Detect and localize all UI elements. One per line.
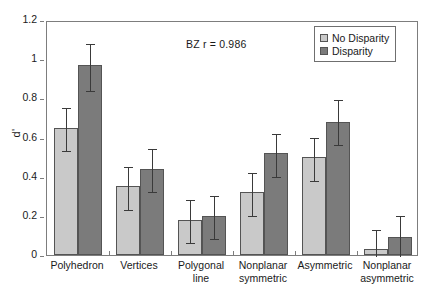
error-bar-cap-bottom (334, 145, 343, 146)
error-bar (214, 196, 215, 239)
legend-item-no-disparity: No Disparity (320, 31, 389, 44)
error-bar-cap-top (62, 108, 71, 109)
bar-chart: d' 00.20.40.60.811.2 PolyhedronVerticesP… (0, 0, 431, 304)
error-bar-cap-top (396, 216, 405, 217)
error-bar-cap-bottom (248, 216, 257, 217)
error-bar (400, 216, 401, 257)
y-tick-mark (40, 99, 44, 100)
x-tick-mark (295, 251, 296, 256)
legend-label-disparity: Disparity (332, 45, 373, 57)
legend: No Disparity Disparity (314, 26, 396, 62)
error-bar-cap-bottom (310, 181, 319, 182)
error-bar (152, 149, 153, 192)
error-bar-cap-bottom (210, 239, 219, 240)
x-tick-mark (357, 251, 358, 256)
error-bar (338, 100, 339, 145)
chart-annotation: BZ r = 0.986 (186, 38, 246, 50)
x-tick-mark (233, 251, 234, 256)
error-bar-cap-top (334, 100, 343, 101)
y-tick-label: 0.4 (22, 170, 37, 182)
y-tick-label: 0.2 (22, 209, 37, 221)
legend-swatch-icon-disparity (320, 47, 328, 55)
error-bar-cap-top (272, 134, 281, 135)
y-tick-label: 0 (31, 248, 37, 260)
error-bar-cap-top (186, 200, 195, 201)
error-bar (90, 44, 91, 91)
y-tick-mark (40, 178, 44, 179)
y-tick-label: 0.8 (22, 91, 37, 103)
y-axis-label: d' (10, 113, 22, 153)
error-bar-cap-top (124, 167, 133, 168)
error-bar-cap-bottom (124, 210, 133, 211)
error-bar-cap-top (248, 173, 257, 174)
y-tick-mark (40, 60, 44, 61)
error-bar-cap-bottom (272, 177, 281, 178)
x-tick-mark (109, 251, 110, 256)
x-axis-label-line: asymmetric (350, 272, 424, 285)
error-bar-cap-top (310, 138, 319, 139)
error-bar (252, 173, 253, 216)
error-bar-cap-top (210, 196, 219, 197)
bar-group (109, 22, 171, 255)
x-axis-label: Nonplanarasymmetric (350, 259, 424, 285)
error-bar-cap-top (148, 149, 157, 150)
y-tick-label: 1.2 (22, 13, 37, 25)
y-tick-mark (40, 217, 44, 218)
bar-group (47, 22, 109, 255)
y-tick-label: 1 (31, 52, 37, 64)
bar-group (233, 22, 295, 255)
x-axis-label-line: Nonplanar (350, 259, 424, 272)
error-bar-cap-top (372, 230, 381, 231)
error-bar (190, 200, 191, 243)
error-bar (314, 138, 315, 181)
y-tick-mark (40, 139, 44, 140)
y-tick-mark (40, 256, 44, 257)
bar-group (171, 22, 233, 255)
legend-label-no-disparity: No Disparity (332, 32, 389, 44)
x-tick-mark (171, 251, 172, 256)
error-bar-cap-bottom (62, 151, 71, 152)
error-bar (128, 167, 129, 210)
legend-item-disparity: Disparity (320, 44, 389, 57)
error-bar-cap-bottom (86, 91, 95, 92)
bar (78, 65, 102, 255)
x-axis-label-line: symmetric (226, 272, 300, 285)
error-bar (376, 230, 377, 257)
error-bar (66, 108, 67, 151)
error-bar-cap-bottom (186, 243, 195, 244)
error-bar (276, 134, 277, 177)
error-bar-cap-bottom (148, 192, 157, 193)
error-bar-cap-top (86, 44, 95, 45)
y-tick-label: 0.6 (22, 131, 37, 143)
x-axis-labels: PolyhedronVerticesPolygonallineNonplanar… (46, 259, 418, 301)
y-tick-mark (40, 21, 44, 22)
legend-swatch-icon-no-disparity (320, 34, 328, 42)
